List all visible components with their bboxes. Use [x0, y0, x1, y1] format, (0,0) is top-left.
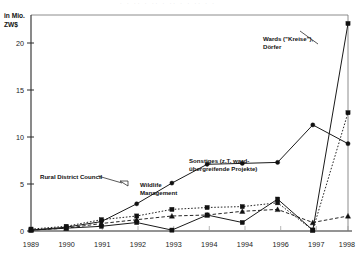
annotation-wildlife-line2: Management: [140, 189, 177, 196]
x-tick-label-6: 1994: [237, 240, 253, 249]
series-line-0: [31, 24, 348, 231]
chart-svg: 0 5 10 15 20 in Mio. ZW$ 1989 1990: [0, 0, 356, 261]
y-tick-label-15: 15: [16, 86, 24, 95]
x-tick-label-2: 1991: [94, 240, 110, 249]
x-tick-label-8: 1997: [308, 240, 324, 249]
x-tick-label-1: 1990: [59, 240, 75, 249]
y-axis-title: in Mio. ZW$: [4, 12, 25, 29]
x-axis-tick-labels: 1989 1990 1991 1992 1993 1994 1994 1996 …: [23, 240, 355, 249]
data-point-2-9: [346, 111, 350, 115]
axis-lines: [31, 15, 352, 231]
data-point-2-6: [240, 205, 244, 209]
frame-top-right: [31, 15, 348, 231]
plot-frame: [31, 15, 352, 231]
data-point-2-4: [170, 207, 174, 211]
y-tick-label-0: 0: [20, 227, 24, 236]
x-tick-label-9: 1998: [339, 240, 355, 249]
data-point-2-5: [205, 205, 209, 209]
data-series-layer: [28, 21, 350, 232]
y-axis-tick-labels: 0 5 10 15 20: [16, 39, 24, 236]
chart-figure: · · ·· · ·· · ·· · · ·· · · 0 5 10 15 20: [0, 0, 356, 261]
data-point-1-7: [276, 160, 280, 164]
x-tick-label-0: 1989: [23, 240, 39, 249]
x-tick-label-3: 1992: [130, 240, 146, 249]
y-axis-title-line2: ZW$: [4, 21, 18, 29]
data-point-0-6: [240, 220, 244, 224]
annotation-wildlife-line1: Wildlife: [140, 181, 162, 188]
leader-rdc-arrowhead: [120, 181, 128, 186]
annotation-sonstiges-line1: Sonstiges (z.T. ward-: [189, 157, 249, 164]
y-tick-label-10: 10: [16, 133, 24, 142]
y-tick-label-5: 5: [20, 180, 24, 189]
data-point-3-9: [345, 213, 350, 218]
data-point-1-8: [311, 123, 315, 127]
annotation-wards-line2: Dörfer: [263, 43, 282, 50]
series-3: [28, 207, 350, 233]
data-point-0-9: [346, 21, 350, 25]
data-point-1-4: [170, 181, 174, 185]
annotation-wards-line1: Wards ("Kreise"),: [263, 35, 314, 42]
data-point-2-8: [311, 228, 315, 232]
annotation-sonstiges-line2: übergreifende Projekte): [189, 165, 257, 172]
annotation-rdc-line1: Rural District Council: [40, 173, 103, 180]
y-axis-title-line1: in Mio.: [4, 12, 25, 19]
data-point-1-9: [346, 142, 350, 146]
series-0: [29, 21, 350, 232]
annotation-labels: Wards ("Kreise"), Dörfer Sonstiges (z.T.…: [40, 35, 314, 196]
data-point-2-7: [276, 201, 280, 205]
x-tick-label-5: 1994: [201, 240, 217, 249]
x-tick-label-4: 1993: [166, 240, 182, 249]
data-point-1-3: [135, 202, 139, 206]
data-point-0-4: [170, 228, 174, 232]
y-tick-label-20: 20: [16, 39, 24, 48]
x-tick-label-7: 1996: [273, 240, 289, 249]
